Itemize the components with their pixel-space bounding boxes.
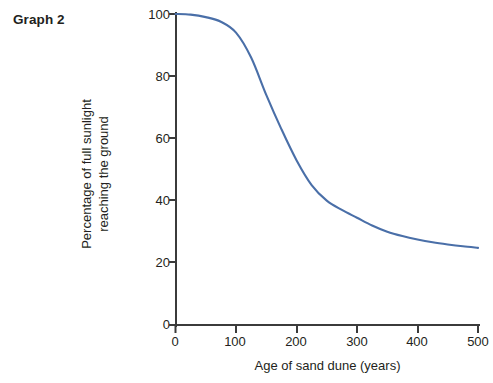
x-tick-marks [176,325,479,333]
graph-figure: Graph 2 Percentage of full sunlight reac… [0,0,493,383]
data-curve-sunlight [176,14,479,248]
y-tick-marks [169,14,176,325]
plot-canvas [0,0,493,383]
